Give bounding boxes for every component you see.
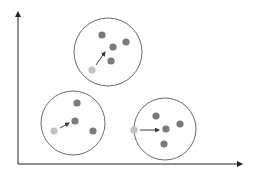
data-point bbox=[89, 127, 96, 134]
cluster-bottom-left bbox=[41, 91, 105, 155]
data-point bbox=[73, 99, 80, 106]
data-point bbox=[98, 31, 105, 38]
clustering-diagram bbox=[0, 0, 256, 180]
data-point bbox=[152, 112, 159, 119]
data-point bbox=[107, 57, 114, 64]
cluster-boundary bbox=[74, 18, 142, 86]
data-point bbox=[162, 125, 169, 132]
data-point bbox=[160, 140, 167, 147]
centroid-shift-arrow bbox=[60, 123, 69, 128]
axes bbox=[18, 12, 242, 164]
data-point bbox=[71, 117, 78, 124]
data-point bbox=[122, 38, 129, 45]
centroid-initial bbox=[50, 127, 57, 134]
cluster-top bbox=[74, 18, 142, 86]
centroid-shift-arrow bbox=[96, 52, 105, 65]
clusters bbox=[41, 18, 196, 160]
centroid-initial bbox=[130, 126, 137, 133]
data-point bbox=[176, 120, 183, 127]
centroid-initial bbox=[88, 66, 95, 73]
cluster-bottom-right bbox=[130, 98, 196, 160]
data-point bbox=[109, 43, 116, 50]
